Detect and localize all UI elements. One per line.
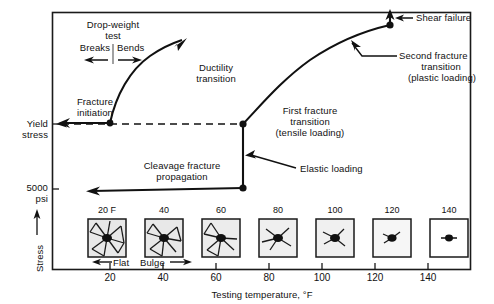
specimen-caption: 60 [201,205,241,215]
first-fracture-label-line3: (tensile loading) [262,127,358,138]
elastic-loading-label: Elastic loading [300,163,363,174]
drop-weight-title-line2: test [63,30,163,41]
marker-first-fracture-transition [239,120,246,127]
x-tick-label: 40 [148,272,178,283]
first-fracture-label-line2: transition [264,116,356,127]
second-fracture-label-line3: (plastic loading) [396,72,488,83]
specimen-caption: 40 [144,205,184,215]
elastic-loading-leader [251,155,296,168]
bulge-label: Bulge [140,257,165,268]
ductility-transition-label-line2: transition [176,73,256,84]
marker-fracture-initiation [107,120,114,127]
bends-label: Bends [117,42,169,53]
psi-label-line1: 5000 [0,182,48,193]
specimen-box [145,219,183,257]
x-tick-label: 140 [413,272,443,283]
marker-second-fracture-transition [386,21,393,28]
x-axis-title: Testing temperature, °F [157,289,367,300]
x-tick-label: 120 [360,272,390,283]
specimen-boxes [88,219,468,257]
breaks-label: Breaks [58,42,110,53]
y-axis-ticks [53,124,60,189]
cleavage-propagation-line [92,188,243,191]
specimen-box [88,219,126,257]
x-tick-label: 60 [201,272,231,283]
specimen-caption: 120 [372,205,412,215]
second-fracture-leader-arrow [351,40,361,51]
specimen-caption: 100 [315,205,355,215]
flat-label: Flat [113,257,129,268]
specimen-box [202,219,240,257]
psi-label-line2: psi [0,193,48,204]
x-tick-label: 80 [254,272,284,283]
ductility-transition-label-line1: Ductility [176,62,256,73]
yield-stress-label-line1: Yield [0,118,48,129]
cleavage-label-line1: Cleavage fracture [122,160,242,171]
specimen-caption: 20 F [87,205,127,215]
second-fracture-label-line1: Second fracture [399,50,468,61]
cleavage-label-line2: propagation [122,171,242,182]
x-tick-label: 100 [307,272,337,283]
specimen-caption: 80 [258,205,298,215]
first-fracture-label-line1: First fracture [264,105,356,116]
y-axis-title: Stress [34,245,45,272]
elastic-loading-leader-arrow [245,150,256,159]
yield-stress-label-line2: stress [0,129,48,140]
drop-weight-title-line1: Drop-weight [63,19,163,30]
fracture-initiation-label-line2: initiation [58,107,132,118]
specimen-box [430,219,468,257]
figure-root: Drop-weight test Breaks Bends Fracture i… [0,0,494,304]
specimen-caption: 140 [429,205,469,215]
specimen-box [373,219,411,257]
second-fracture-label-line2: transition [399,61,483,72]
marker-cleavage-endpoint [239,184,246,191]
fracture-initiation-label-line1: Fracture [58,96,132,107]
specimen-box [316,219,354,257]
specimen-box [259,219,297,257]
second-fracture-leader [352,43,397,56]
shear-failure-label: Shear failure [416,12,471,23]
x-tick-label: 20 [95,272,125,283]
